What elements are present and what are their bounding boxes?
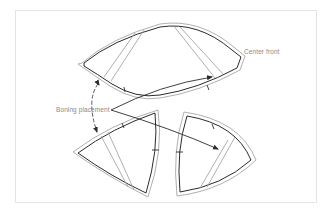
lower-left-cup-piece bbox=[73, 110, 160, 197]
upper-cup-piece bbox=[78, 23, 245, 99]
pattern-diagram bbox=[0, 0, 328, 212]
lower-right-cup-piece bbox=[176, 112, 256, 196]
center-front-label: Center front bbox=[244, 48, 280, 55]
boning-placement-label: Boning placement bbox=[56, 106, 110, 113]
